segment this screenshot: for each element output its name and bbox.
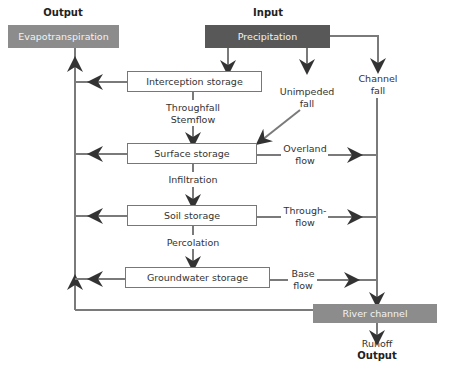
output-header-bottom: Output [347, 350, 407, 361]
throughflow-label-2: flow [280, 217, 330, 229]
precipitation-box: Precipitation [205, 25, 330, 48]
groundwater-storage-box: Groundwater storage [125, 267, 270, 288]
soil-storage-box: Soil storage [127, 205, 257, 226]
interception-storage-box: Interception storage [127, 71, 262, 92]
percolation-label: Percolation [158, 237, 228, 249]
infiltration-label: Infiltration [158, 174, 228, 186]
base-flow-label-2: flow [288, 280, 318, 292]
river-channel-box: River channel [313, 304, 437, 323]
evapotranspiration-box: Evapotranspiration [8, 25, 119, 48]
channel-fall-label-2: fall [348, 85, 408, 97]
throughfall-label: Throughfall [158, 102, 228, 114]
input-header: Input [238, 7, 298, 18]
runoff-label: Runoff [352, 338, 402, 350]
overland-flow-label-1: Overland [280, 143, 330, 155]
throughflow-label-1: Through- [280, 205, 330, 217]
base-flow-label-1: Base [288, 268, 318, 280]
stemflow-label: Stemflow [158, 114, 228, 126]
unimpeded-fall-label-2: fall [272, 98, 342, 110]
channel-fall-label-1: Channel [348, 73, 408, 85]
overland-flow-label-2: flow [280, 155, 330, 167]
surface-storage-box: Surface storage [127, 143, 257, 164]
output-header-top: Output [33, 7, 93, 18]
unimpeded-fall-label-1: Unimpeded [272, 86, 342, 98]
